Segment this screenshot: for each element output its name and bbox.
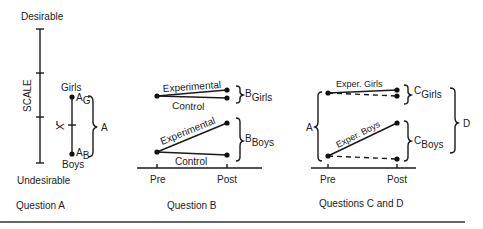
girls-ctrl-post-point xyxy=(394,93,399,98)
question-cd-caption: Questions C and D xyxy=(319,198,404,209)
undesirable-label: Undesirable xyxy=(17,175,71,186)
boys-pre-point xyxy=(154,149,159,154)
question-b-panel: Experimental Control Experimental Contro… xyxy=(137,79,274,211)
ag-point xyxy=(69,94,74,99)
post-label: Post xyxy=(387,174,407,185)
girls-ctrl-post-point xyxy=(224,95,229,100)
boys-control-label: Control xyxy=(175,156,207,167)
girls-experimental-line xyxy=(328,90,397,93)
boys-control-line xyxy=(157,152,227,155)
girls-control-label: Control xyxy=(172,100,205,112)
question-b-caption: Question B xyxy=(167,200,217,211)
brace-d xyxy=(450,88,458,153)
boys-control-dashed-line xyxy=(328,156,397,159)
brace-b-boys xyxy=(236,118,243,161)
brace-c-boys xyxy=(404,121,411,161)
desirable-label: Desirable xyxy=(21,11,64,22)
bracket-a-label: A xyxy=(306,122,313,133)
boys-ctrl-post-point xyxy=(394,156,399,161)
ab-point xyxy=(69,151,74,156)
b-girls-label: BGirls xyxy=(245,88,272,103)
bracket-a xyxy=(315,92,322,161)
ag-label: AG xyxy=(76,92,91,106)
boys-label: Boys xyxy=(62,159,84,170)
question-cd-panel: A Exper. Girls Exper. Boys CGirls CBoys … xyxy=(306,79,470,209)
brace-c-girls xyxy=(404,85,411,104)
question-a-panel: Desirable SCALE Girls AG AB X Boys A Und… xyxy=(16,11,108,211)
girls-control-line xyxy=(157,96,227,98)
brace-d-label: D xyxy=(463,118,470,129)
post-label: Post xyxy=(217,174,237,185)
b-boys-label: BBoys xyxy=(245,133,274,148)
c-girls-label: CGirls xyxy=(414,85,442,100)
boys-pre-point xyxy=(325,153,330,158)
pre-label: Pre xyxy=(320,174,336,185)
boys-exp-post-point xyxy=(224,120,229,125)
c-boys-label: CBoys xyxy=(414,135,443,150)
boys-exp-post-point xyxy=(394,120,399,125)
exper-girls-label: Exper. Girls xyxy=(336,79,383,89)
girls-control-dashed-line xyxy=(328,93,397,96)
pre-label: Pre xyxy=(150,174,166,185)
girls-exp-post-point xyxy=(394,87,399,92)
diagram-canvas: Desirable SCALE Girls AG AB X Boys A Und… xyxy=(0,0,483,229)
boys-ctrl-post-point xyxy=(224,152,229,157)
girls-pre-point xyxy=(325,90,330,95)
exper-boys-label: Exper. Boys xyxy=(334,119,382,150)
brace-a-label: A xyxy=(101,122,108,133)
brace-b-girls xyxy=(236,86,243,103)
girls-pre-point xyxy=(154,93,159,98)
girls-exp-post-point xyxy=(224,87,229,92)
scale-axis-label: SCALE xyxy=(22,79,33,112)
question-a-caption: Question A xyxy=(16,200,65,211)
